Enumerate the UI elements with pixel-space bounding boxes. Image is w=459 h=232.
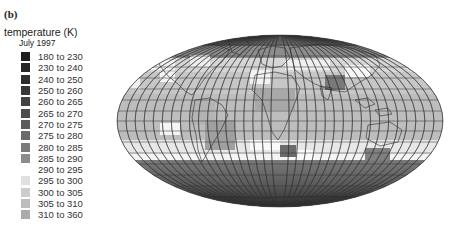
world-temperature-map: [0, 0, 459, 232]
map-fill: [110, 30, 450, 210]
